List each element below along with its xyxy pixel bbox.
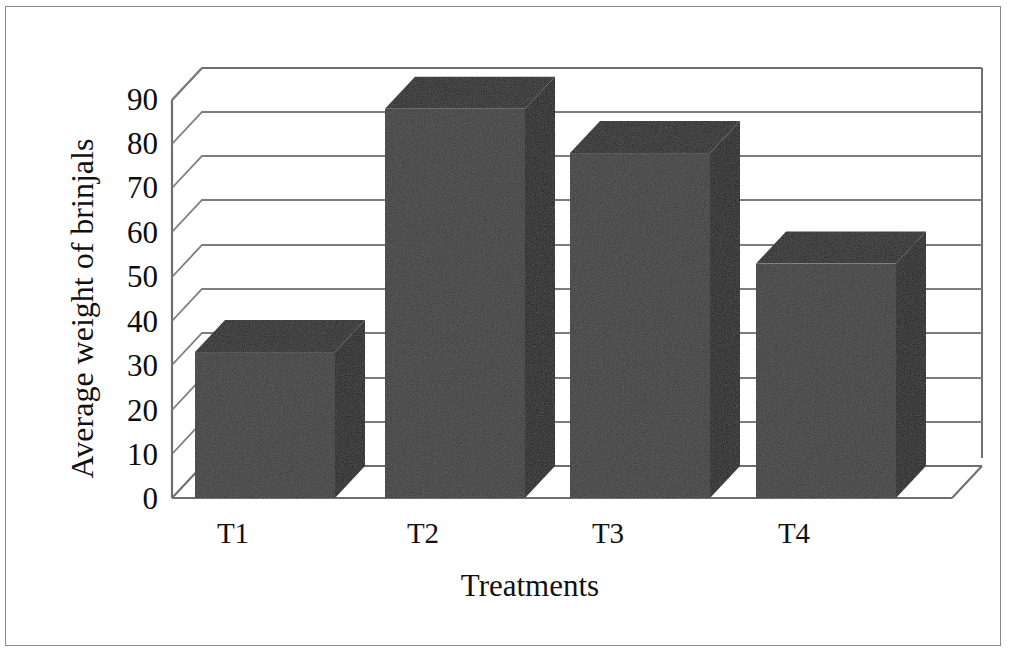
chart-page: 90 80 70 60 50 40 30 20 10 0 Average wei… [0,0,1011,651]
x-tick-t1: T1 [153,517,313,550]
bar-t2 [385,77,555,498]
x-tick-t2: T2 [343,517,503,550]
bar-t1 [195,320,365,498]
y-axis-title: Average weight of brinjals [64,109,101,509]
bar-series-group [195,77,926,498]
x-tick-t4: T4 [714,517,874,550]
bar-t4 [756,232,926,498]
x-axis-title: Treatments [250,568,810,604]
bar-t3 [570,121,740,498]
x-tick-t3: T3 [528,517,688,550]
bar-chart-figure: 90 80 70 60 50 40 30 20 10 0 Average wei… [0,0,1011,651]
